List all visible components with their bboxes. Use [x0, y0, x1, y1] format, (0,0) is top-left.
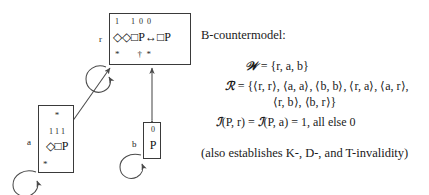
- relation-set-line-2: ⟨r, b⟩, ⟨b, r⟩}: [273, 96, 336, 108]
- relation-value-1: = {⟨r, r⟩, ⟨a, a⟩, ⟨b, b⟩, ⟨r, a⟩, ⟨a, r…: [235, 79, 409, 93]
- figure-canvas: r 1 1 0 0 ◇◇□P↔□P * † * a * 1 1 1 ◇□P * …: [0, 0, 429, 195]
- bidirectional-arrow-r-a-icon: [72, 68, 110, 122]
- self-loop-r-icon: [86, 66, 110, 92]
- world-box-a: * 1 1 1 ◇□P *: [38, 105, 74, 173]
- invalidity-note: (also establishes K-, D-, and T-invalidi…: [201, 147, 408, 160]
- interpretation-part-1: (P, r) =: [222, 115, 258, 129]
- self-loop-a-icon: [13, 171, 38, 195]
- world-label-r: r: [99, 35, 102, 44]
- world-box-b: 0 P: [143, 122, 161, 159]
- world-r-formula: ◇◇□P↔□P: [113, 31, 191, 43]
- countermodel-title: B-countermodel:: [201, 29, 286, 42]
- world-a-bottom-mark: *: [43, 160, 48, 169]
- world-label-b: b: [132, 140, 137, 149]
- worlds-value: = {r, a, b}: [258, 59, 309, 73]
- world-b-truth-values: 0: [144, 126, 162, 134]
- countermodel-panel: B-countermodel: 𝒲 = {r, a, b} ℛ = {⟨r, r…: [201, 0, 429, 195]
- interpretation-part-2: (P, a) = 1, all else 0: [264, 115, 356, 129]
- relation-set-line-1: ℛ = {⟨r, r⟩, ⟨a, a⟩, ⟨b, b⟩, ⟨r, a⟩, ⟨a,…: [225, 80, 409, 92]
- world-label-a: a: [27, 138, 31, 147]
- world-r-marks: * † *: [115, 50, 187, 59]
- self-loop-b-icon: [120, 154, 143, 178]
- interpretation-line: ℐ(P, r) = ℐ(P, a) = 1, all else 0: [216, 116, 356, 128]
- worlds-set-line: 𝒲 = {r, a, b}: [245, 60, 309, 72]
- world-b-formula: P: [144, 139, 162, 151]
- world-a-formula: ◇□P: [39, 140, 75, 152]
- relation-symbol: ℛ: [225, 79, 235, 93]
- world-box-r: 1 1 0 0 ◇◇□P↔□P * † *: [109, 13, 191, 65]
- world-r-truth-values: 1 1 0 0: [115, 18, 187, 26]
- world-a-truth-values: 1 1 1: [39, 128, 75, 136]
- worlds-symbol: 𝒲: [245, 59, 258, 73]
- world-a-top-mark: *: [39, 111, 75, 120]
